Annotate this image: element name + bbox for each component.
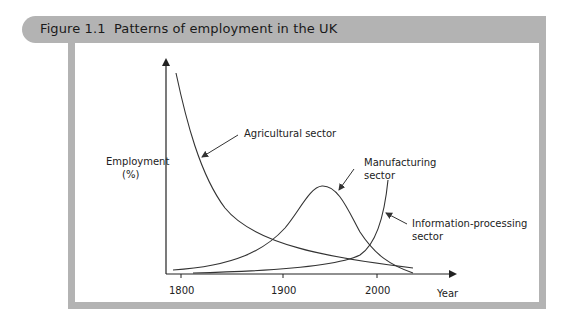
agricultural-sector-label: Agricultural sector [244,128,337,139]
x-tick-label-2000: 2000 [365,285,390,296]
manufacturing-sector-label-line2: sector [364,170,396,181]
x-tick-label-1800: 1800 [169,285,194,296]
information-processing-sector-curve [193,180,388,273]
manufacturing-annotation-arrow [339,169,354,190]
information-sector-label-line2: sector [412,231,444,242]
x-axis-label: Year [436,288,459,299]
agricultural-annotation-arrow [202,135,238,157]
y-axis-label-line2: (%) [122,169,139,180]
manufacturing-sector-curve [173,186,413,273]
x-tick-label-1900: 1900 [271,285,296,296]
manufacturing-sector-label-line1: Manufacturing [364,157,436,168]
information-sector-label-line1: Information-processing [412,218,527,229]
chart-plot: 1800 1900 2000 Year Employment (%) Agric… [0,0,574,321]
information-annotation-arrow [386,213,407,224]
y-axis-label-line1: Employment [106,156,169,167]
